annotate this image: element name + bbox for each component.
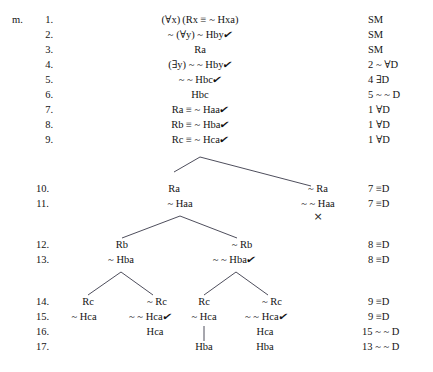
- node-line-11-left: ~ Haa: [167, 198, 192, 210]
- formula-text-6: Hbc: [191, 89, 209, 100]
- formula-line-5: ~ ~ Hbc✔: [179, 74, 222, 86]
- justification-line-10: 7 ≡D: [368, 183, 389, 195]
- node-line-15-col4: ~ ~ Hca✔: [245, 311, 287, 323]
- justification-line-4: 2 ~ ∀D: [368, 59, 398, 71]
- justification-line-11: 7 ≡D: [368, 198, 389, 210]
- node-line-12-left: Rb: [116, 239, 128, 251]
- line-number-3: 3.: [33, 44, 53, 56]
- check-icon-line-2: ✔: [222, 29, 234, 41]
- line-number-11: 11.: [29, 198, 49, 210]
- node-line-14-col2: ~ Rc: [147, 296, 167, 308]
- node-line-15-col1: ~ Hca: [71, 311, 96, 323]
- branch-line-14-c2: [121, 272, 153, 295]
- node-line-14-col3: Rc: [198, 296, 210, 308]
- formula-text-5: ~ ~ Hbc: [179, 74, 213, 85]
- justification-line-8: 1 ∀D: [368, 119, 390, 131]
- node-line-16-col4: Hca: [257, 326, 274, 338]
- formula-text-7: Ra ≡ ~ Haa: [172, 104, 220, 115]
- formula-text-3: Ra: [194, 44, 206, 55]
- node-line-17-col4: Hba: [256, 341, 274, 353]
- justification-line-1: SM: [368, 14, 383, 26]
- branch-line-10-right: [200, 157, 311, 186]
- branch-line-12-left: [122, 216, 180, 238]
- check-icon-line-13: ✔: [245, 254, 257, 266]
- line-number-15: 15.: [29, 311, 49, 323]
- node-line-15-col3: ~ Hca: [191, 311, 216, 323]
- formula-line-6: Hbc: [191, 89, 209, 101]
- justification-line-14: 9 ≡D: [368, 296, 389, 308]
- justification-line-5: 4 ∃D: [368, 74, 389, 86]
- line-number-4: 4.: [33, 59, 53, 71]
- node-line-11-right: ~ ~ Haa: [301, 198, 335, 210]
- justification-line-6: 5 ~ ~ D: [368, 89, 400, 101]
- node-line-13-right: ~ ~ Hba✔: [213, 254, 256, 266]
- line-number-1: 1.: [33, 14, 53, 26]
- node-line-12-right: ~ Rb: [232, 239, 253, 251]
- node-line-14-col1: Rc: [82, 296, 94, 308]
- node-line-14-col4: ~ Rc: [262, 296, 282, 308]
- justification-line-17: 13 ~ ~ D: [362, 341, 399, 353]
- justification-line-15: 9 ≡D: [368, 311, 389, 323]
- justification-line-12: 8 ≡D: [368, 239, 389, 251]
- check-icon-line-8: ✔: [219, 119, 231, 131]
- line-number-16: 16.: [29, 326, 49, 338]
- formula-text-2: ~ (∀y) ~ Hby: [168, 29, 224, 40]
- check-icon-line-4: ✔: [222, 59, 234, 71]
- branch-line-14-c4: [236, 272, 268, 295]
- line-number-17: 17.: [29, 341, 49, 353]
- formula-line-8: Rb ≡ ~ Hba✔: [171, 119, 229, 131]
- node-line-10-right: ~ Ra: [308, 183, 328, 195]
- truth-tree-figure: m. 1. 2. 3. 4. 5. 6. 7. 8. 9. 10. 11. 12…: [0, 0, 433, 372]
- justification-line-16: 15 ~ ~ D: [362, 326, 399, 338]
- line-number-8: 8.: [33, 119, 53, 131]
- branch-line-14-c3: [204, 272, 236, 295]
- formula-line-9: Rc ≡ ~ Hca✔: [172, 134, 228, 146]
- branch-line-10-left: [174, 157, 200, 172]
- justification-line-2: SM: [368, 29, 383, 41]
- line-number-2: 2.: [33, 29, 53, 41]
- branch-line-14-c1: [88, 272, 121, 295]
- node-line-16-col2: Hca: [147, 326, 164, 338]
- margin-label: m.: [12, 14, 23, 26]
- line-number-5: 5.: [33, 74, 53, 86]
- justification-line-7: 1 ∀D: [368, 104, 390, 116]
- formula-line-1: (∀x) (Rx ≡ ~ Hxa): [162, 14, 239, 26]
- formula-text-4: (∃y) ~ ~ Hby: [168, 59, 223, 70]
- check-icon-line-7: ✔: [218, 104, 230, 116]
- line-number-14: 14.: [29, 296, 49, 308]
- line-number-6: 6.: [33, 89, 53, 101]
- node-line-15-col2-text: ~ ~ Hca: [129, 311, 163, 322]
- node-line-17-col3: Hba: [195, 341, 213, 353]
- check-icon-line-15-col4: ✔: [277, 311, 289, 323]
- formula-line-2: ~ (∀y) ~ Hby✔: [168, 29, 232, 41]
- line-number-9: 9.: [33, 134, 53, 146]
- node-line-15-col2: ~ ~ Hca✔: [129, 311, 171, 323]
- node-line-15-col4-text: ~ ~ Hca: [245, 311, 279, 322]
- justification-line-3: SM: [368, 44, 383, 56]
- node-line-10-left: Ra: [168, 183, 180, 195]
- line-number-13: 13.: [29, 254, 49, 266]
- justification-line-13: 8 ≡D: [368, 254, 389, 266]
- check-icon-line-15-col2: ✔: [161, 311, 173, 323]
- formula-line-3: Ra: [194, 44, 206, 56]
- justification-line-9: 1 ∀D: [368, 134, 390, 146]
- formula-text-1: (∀x) (Rx ≡ ~ Hxa): [162, 14, 239, 25]
- formula-text-9: Rc ≡ ~ Hca: [172, 134, 220, 145]
- branch-line-12-right: [180, 216, 237, 238]
- closed-branch-x-icon-1: ×: [313, 211, 322, 223]
- node-line-13-right-text: ~ ~ Hba: [213, 254, 247, 265]
- check-icon-line-9: ✔: [218, 134, 230, 146]
- line-number-12: 12.: [29, 239, 49, 251]
- formula-text-8: Rb ≡ ~ Hba: [171, 119, 220, 130]
- line-number-10: 10.: [29, 183, 49, 195]
- formula-line-4: (∃y) ~ ~ Hby✔: [168, 59, 232, 71]
- node-line-13-left: ~ Hba: [108, 254, 134, 266]
- formula-line-7: Ra ≡ ~ Haa✔: [172, 104, 228, 116]
- check-icon-line-5: ✔: [211, 74, 223, 86]
- line-number-7: 7.: [33, 104, 53, 116]
